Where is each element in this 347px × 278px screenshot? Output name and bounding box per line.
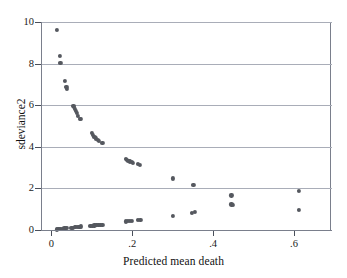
data-point (65, 86, 69, 90)
x-tick-mark (294, 231, 295, 236)
y-tick-label: 6 (29, 100, 34, 110)
y-tick-label: 0 (29, 225, 34, 235)
gridline (42, 147, 332, 148)
data-point (191, 183, 195, 187)
data-point (171, 214, 175, 218)
scatter-plot-figure: 0246810 0.2.4.6 sdeviance2 Predicted mea… (0, 0, 347, 278)
x-tick-label: .4 (193, 238, 233, 249)
gridline (42, 105, 332, 106)
gridline (42, 64, 332, 65)
data-point (63, 79, 67, 83)
data-point (297, 189, 301, 193)
x-tick-mark (132, 231, 133, 236)
y-tick-mark (35, 230, 41, 231)
data-point (130, 219, 134, 223)
data-point (79, 117, 83, 121)
data-point (231, 203, 235, 207)
y-tick-label: 2 (29, 183, 34, 193)
y-axis-line (41, 22, 42, 231)
data-point (58, 54, 62, 58)
data-point (297, 208, 301, 212)
plot-area (41, 22, 331, 230)
x-axis-title: Predicted mean death (0, 255, 347, 267)
y-tick-label: 10 (24, 17, 35, 27)
y-tick-label: 8 (29, 59, 34, 69)
y-axis-title: sdeviance2 (15, 64, 27, 184)
data-point (138, 163, 142, 167)
y-tick-mark (35, 64, 41, 65)
data-point (138, 218, 142, 222)
data-point (55, 28, 59, 32)
y-tick-mark (35, 22, 41, 23)
y-tick-mark (35, 147, 41, 148)
x-tick-mark (213, 231, 214, 236)
gridline (42, 22, 332, 23)
data-point (171, 176, 175, 180)
x-tick-label: .2 (112, 238, 152, 249)
x-tick-label: 0 (31, 238, 71, 249)
x-tick-label: .6 (274, 238, 314, 249)
data-point (131, 161, 135, 165)
data-point (79, 224, 83, 228)
data-point (100, 141, 104, 145)
data-point (100, 222, 104, 226)
y-tick-mark (35, 105, 41, 106)
x-axis-line (41, 230, 332, 231)
data-point (229, 193, 233, 197)
y-tick-mark (35, 188, 41, 189)
data-point (193, 210, 197, 214)
x-tick-mark (51, 231, 52, 236)
gridline (42, 188, 332, 189)
y-tick-label: 4 (29, 142, 34, 152)
